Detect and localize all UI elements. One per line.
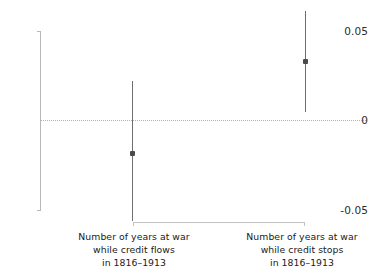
y-tick-label-0.05: 0.05 xyxy=(334,26,368,37)
group-bracket xyxy=(133,222,305,226)
data-point-credit-flows xyxy=(130,151,135,156)
y-axis-spine xyxy=(40,31,41,211)
zero-reference-line xyxy=(41,120,368,121)
x-label-line-2: while credit stops xyxy=(236,243,368,256)
x-axis-label-credit-flows: Number of years at war while credit flow… xyxy=(68,230,200,269)
x-label-line-1: Number of years at war xyxy=(68,230,200,243)
x-label-line-1: Number of years at war xyxy=(236,230,368,243)
x-axis-label-credit-stops: Number of years at war while credit stop… xyxy=(236,230,368,269)
x-label-line-3: in 1816–1913 xyxy=(68,256,200,269)
x-label-line-2: while credit flows xyxy=(68,243,200,256)
coefficient-plot-figure: 0.05 0 -0.05 Number of years at war whil… xyxy=(0,0,368,277)
y-axis-tick-bottom xyxy=(37,210,41,211)
y-axis-tick-top xyxy=(37,31,41,32)
y-tick-label-neg0.05: -0.05 xyxy=(334,205,368,216)
data-point-credit-stops xyxy=(303,59,308,64)
x-label-line-3: in 1816–1913 xyxy=(236,256,368,269)
